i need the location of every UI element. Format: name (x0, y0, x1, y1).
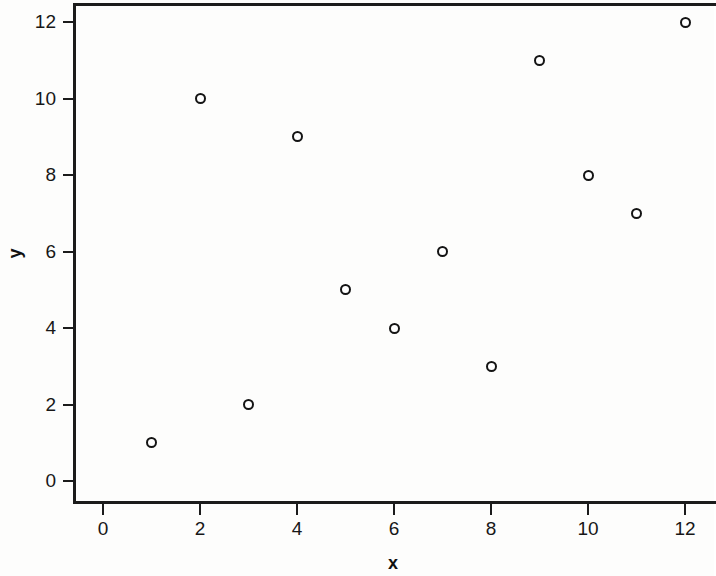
y-tick-mark (63, 174, 74, 176)
data-point-marker (195, 93, 206, 104)
y-tick-mark (63, 480, 74, 482)
plot-frame (73, 3, 716, 503)
x-tick-label: 8 (469, 519, 513, 538)
y-tick-mark (63, 404, 74, 406)
y-tick-label: 12 (12, 12, 56, 31)
y-tick-mark (63, 327, 74, 329)
x-axis-title: x (373, 553, 413, 574)
x-tick-mark (393, 504, 395, 515)
x-tick-mark (199, 504, 201, 515)
data-point-marker (486, 361, 497, 372)
x-tick-label: 12 (663, 519, 707, 538)
y-tick-label: 10 (12, 89, 56, 108)
x-tick-label: 6 (372, 519, 416, 538)
data-point-marker (389, 323, 400, 334)
data-point-marker (680, 17, 691, 28)
data-point-marker (631, 208, 642, 219)
data-point-marker (534, 55, 545, 66)
y-tick-mark (63, 251, 74, 253)
y-tick-label: 2 (12, 395, 56, 414)
data-point-marker (437, 246, 448, 257)
y-tick-label: 4 (12, 318, 56, 337)
y-tick-mark (63, 98, 74, 100)
y-tick-label: 8 (12, 165, 56, 184)
x-tick-mark (102, 504, 104, 515)
y-tick-mark (63, 21, 74, 23)
y-axis-title: y (5, 234, 26, 274)
x-tick-mark (296, 504, 298, 515)
x-tick-mark (490, 504, 492, 515)
x-tick-label: 0 (81, 519, 125, 538)
x-tick-mark (684, 504, 686, 515)
data-point-marker (292, 131, 303, 142)
y-tick-label: 0 (12, 471, 56, 490)
x-tick-mark (587, 504, 589, 515)
data-point-marker (583, 170, 594, 181)
data-point-marker (243, 399, 254, 410)
x-tick-label: 4 (275, 519, 319, 538)
x-tick-label: 2 (178, 519, 222, 538)
x-tick-label: 10 (566, 519, 610, 538)
